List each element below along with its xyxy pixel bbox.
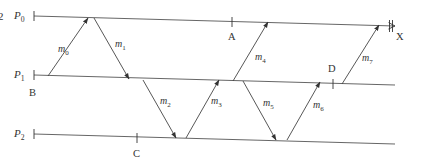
arrow-icon xyxy=(186,80,219,138)
timeline-p0 xyxy=(34,16,395,26)
process-p2: P2 xyxy=(13,127,395,144)
process-p1: P1 xyxy=(13,68,395,85)
message-label: m3 xyxy=(211,95,222,109)
message-label: m0 xyxy=(58,43,69,57)
message-label: m7 xyxy=(362,52,373,66)
message-label: m5 xyxy=(263,97,274,111)
message-m4: m4 xyxy=(233,22,268,81)
process-p0: P0 xyxy=(13,9,395,26)
arrow-icon xyxy=(233,22,268,81)
event-a: A xyxy=(228,17,236,42)
timeline-p1 xyxy=(34,75,395,85)
message-label: m2 xyxy=(160,95,171,109)
event-label: A xyxy=(228,31,236,42)
process-label: P2 xyxy=(13,127,25,142)
timeline-p2 xyxy=(34,134,395,144)
message-m5: m5 xyxy=(243,81,276,140)
arrow-icon xyxy=(48,18,88,76)
event-label: X xyxy=(396,31,404,42)
message-label: m6 xyxy=(313,99,324,113)
message-m2: m2 xyxy=(143,80,176,138)
event-d: D xyxy=(328,63,336,89)
process-label: P0 xyxy=(13,9,25,24)
space-time-diagram: 2 P0P1P2 m0m1m2m3m4m5m6m7 ABCDX xyxy=(0,0,428,165)
event-label: B xyxy=(29,87,36,98)
message-m6: m6 xyxy=(287,82,324,140)
event-label: C xyxy=(133,148,140,159)
figure-number-fragment: 2 xyxy=(0,10,4,22)
message-m1: m1 xyxy=(94,18,129,79)
arrow-icon xyxy=(287,82,320,140)
event-b: B xyxy=(29,87,36,98)
message-label: m4 xyxy=(255,51,266,65)
event-markers: ABCDX xyxy=(29,17,404,159)
event-label: D xyxy=(328,63,336,74)
process-label: P1 xyxy=(13,68,25,83)
event-x: X xyxy=(390,20,405,42)
message-m3: m3 xyxy=(186,80,222,138)
arrow-icon xyxy=(342,25,379,84)
process-lines: P0P1P2 xyxy=(13,9,395,144)
message-label: m1 xyxy=(115,38,126,52)
message-arrows: m0m1m2m3m4m5m6m7 xyxy=(48,18,379,140)
message-m0: m0 xyxy=(48,18,88,76)
arrow-icon xyxy=(143,80,176,138)
message-m7: m7 xyxy=(342,25,379,84)
